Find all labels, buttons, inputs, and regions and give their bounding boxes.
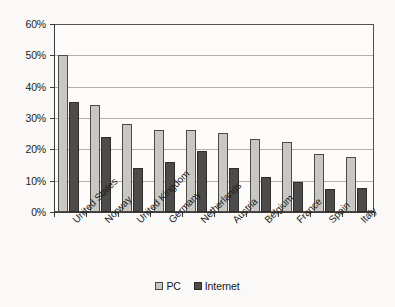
x-axis-tick-mark <box>54 213 55 217</box>
y-axis-tick-label: 20% <box>6 144 46 154</box>
bar-chart: 0%10%20%30%40%50%60% United StatesNorway… <box>0 0 395 307</box>
bar-internet-netherlands <box>197 151 208 212</box>
bar-internet-united-states <box>69 102 80 212</box>
chart-legend: PCInternet <box>0 280 395 292</box>
y-axis-tick-label: 30% <box>6 113 46 123</box>
legend-label: PC <box>166 280 180 292</box>
bar-internet-france <box>293 182 304 212</box>
legend-item-internet: Internet <box>194 280 240 292</box>
bar-internet-united-kingdom <box>133 168 144 212</box>
y-axis-tick-label: 0% <box>6 207 46 217</box>
legend-swatch-pc <box>155 282 163 290</box>
bar-pc-united-states <box>58 55 69 212</box>
y-axis-tick-label: 40% <box>6 82 46 92</box>
legend-item-pc: PC <box>155 280 180 292</box>
y-axis-tick-label: 60% <box>6 19 46 29</box>
y-axis-tick-label: 50% <box>6 50 46 60</box>
legend-label: Internet <box>205 280 240 292</box>
y-axis-tick-label: 10% <box>6 176 46 186</box>
legend-swatch-internet <box>194 282 202 290</box>
bar-internet-belgium <box>261 177 272 212</box>
